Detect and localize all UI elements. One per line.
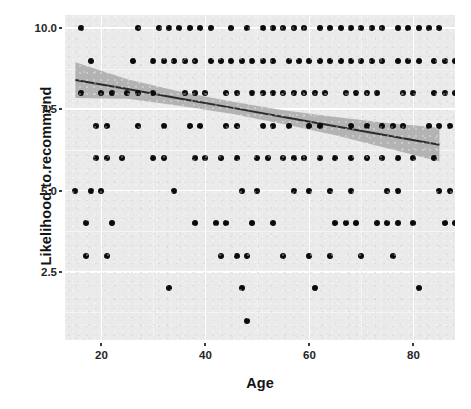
data-point bbox=[306, 123, 312, 129]
data-point bbox=[161, 58, 167, 64]
data-point bbox=[348, 123, 354, 129]
data-point bbox=[104, 155, 110, 161]
data-point bbox=[431, 155, 437, 161]
data-point bbox=[192, 90, 198, 96]
data-point bbox=[280, 25, 286, 31]
data-point bbox=[317, 123, 323, 129]
data-points-layer bbox=[65, 15, 455, 340]
plot-panel bbox=[65, 15, 455, 340]
data-point bbox=[348, 58, 354, 64]
data-point bbox=[176, 25, 182, 31]
data-point bbox=[405, 25, 411, 31]
data-point bbox=[228, 58, 234, 64]
data-point bbox=[364, 90, 370, 96]
data-point bbox=[343, 220, 349, 226]
data-point bbox=[130, 58, 136, 64]
data-point bbox=[338, 25, 344, 31]
data-point bbox=[416, 58, 422, 64]
data-point bbox=[332, 220, 338, 226]
data-point bbox=[374, 220, 380, 226]
data-point bbox=[306, 253, 312, 259]
data-point bbox=[410, 90, 416, 96]
data-point bbox=[296, 58, 302, 64]
data-point bbox=[332, 155, 338, 161]
data-point bbox=[400, 90, 406, 96]
data-point bbox=[410, 220, 416, 226]
data-point bbox=[431, 58, 437, 64]
data-point bbox=[358, 253, 364, 259]
data-point bbox=[93, 155, 99, 161]
data-point bbox=[447, 188, 453, 194]
data-point bbox=[327, 253, 333, 259]
x-tick-label: 60 bbox=[289, 349, 329, 361]
data-point bbox=[327, 25, 333, 31]
data-point bbox=[348, 155, 354, 161]
data-point bbox=[182, 90, 188, 96]
data-point bbox=[395, 220, 401, 226]
data-point bbox=[161, 155, 167, 161]
x-tick-label: 20 bbox=[81, 349, 121, 361]
data-point bbox=[405, 58, 411, 64]
data-point bbox=[379, 25, 385, 31]
data-point bbox=[280, 90, 286, 96]
data-point bbox=[395, 25, 401, 31]
data-point bbox=[447, 123, 453, 129]
data-point bbox=[171, 188, 177, 194]
data-point bbox=[416, 25, 422, 31]
data-point bbox=[442, 90, 448, 96]
x-axis-title: Age bbox=[65, 375, 455, 391]
data-point bbox=[150, 58, 156, 64]
data-point bbox=[150, 155, 156, 161]
x-tick-label: 40 bbox=[185, 349, 225, 361]
data-point bbox=[291, 25, 297, 31]
data-point bbox=[109, 220, 115, 226]
data-point bbox=[197, 25, 203, 31]
data-point bbox=[327, 58, 333, 64]
data-point bbox=[171, 58, 177, 64]
data-point bbox=[254, 188, 260, 194]
data-point bbox=[348, 188, 354, 194]
y-tick-mark bbox=[59, 271, 62, 273]
y-tick-label: 10.0 bbox=[23, 22, 57, 34]
data-point bbox=[161, 123, 167, 129]
data-point bbox=[291, 155, 297, 161]
data-point bbox=[426, 123, 432, 129]
data-point bbox=[369, 25, 375, 31]
data-point bbox=[98, 90, 104, 96]
data-point bbox=[410, 155, 416, 161]
y-tick-mark bbox=[59, 190, 62, 192]
data-point bbox=[364, 155, 370, 161]
x-tick-label: 80 bbox=[393, 349, 433, 361]
data-point bbox=[93, 123, 99, 129]
data-point bbox=[239, 285, 245, 291]
data-point bbox=[192, 155, 198, 161]
data-point bbox=[348, 25, 354, 31]
data-point bbox=[280, 253, 286, 259]
data-point bbox=[78, 25, 84, 31]
data-point bbox=[88, 188, 94, 194]
data-point bbox=[400, 123, 406, 129]
data-point bbox=[270, 123, 276, 129]
data-point bbox=[218, 58, 224, 64]
data-point bbox=[197, 123, 203, 129]
data-point bbox=[260, 90, 266, 96]
y-tick-mark bbox=[59, 27, 62, 29]
data-point bbox=[317, 155, 323, 161]
data-point bbox=[431, 90, 437, 96]
data-point bbox=[395, 58, 401, 64]
data-point bbox=[395, 188, 401, 194]
data-point bbox=[265, 155, 271, 161]
data-point bbox=[254, 155, 260, 161]
data-point bbox=[135, 90, 141, 96]
data-point bbox=[218, 253, 224, 259]
data-point bbox=[135, 25, 141, 31]
data-point bbox=[374, 90, 380, 96]
data-point bbox=[301, 25, 307, 31]
data-point bbox=[249, 58, 255, 64]
data-point bbox=[384, 188, 390, 194]
data-point bbox=[426, 25, 432, 31]
data-point bbox=[187, 25, 193, 31]
data-point bbox=[442, 58, 448, 64]
data-point bbox=[364, 123, 370, 129]
data-point bbox=[98, 188, 104, 194]
